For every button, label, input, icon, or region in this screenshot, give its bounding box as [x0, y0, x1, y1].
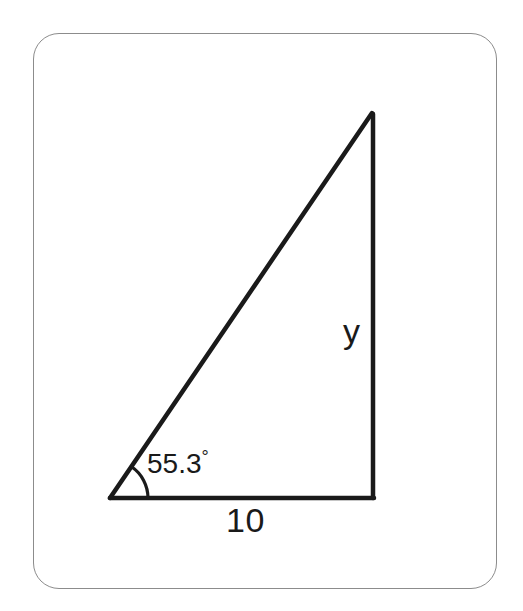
angle-value-text: 55.3: [147, 448, 202, 479]
vertical-side-label: y: [343, 314, 360, 348]
figure-root: 10 y 55.3°: [0, 0, 523, 611]
degree-symbol-icon: °: [202, 447, 209, 467]
base-length-label: 10: [226, 503, 265, 537]
triangle-hypotenuse: [110, 113, 372, 498]
angle-measure-label: 55.3°: [147, 450, 209, 478]
angle-arc: [132, 467, 148, 498]
